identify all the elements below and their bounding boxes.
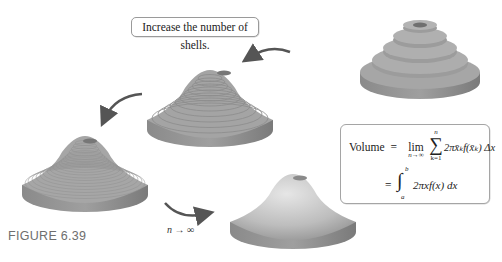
integral-lower: a bbox=[401, 193, 405, 201]
formula-volume-label: Volume bbox=[349, 141, 385, 153]
smooth-solid bbox=[230, 174, 356, 249]
sum-lower: k=1 bbox=[427, 154, 445, 162]
few-shells-solid bbox=[360, 20, 480, 99]
formula-equals: = bbox=[390, 141, 397, 153]
arrow-middle-to-left-icon bbox=[105, 94, 142, 118]
more-shells-solid bbox=[147, 70, 273, 147]
sigma-icon: ∑ bbox=[427, 136, 445, 154]
integral-upper: b bbox=[405, 165, 409, 173]
formula-integrand: 2πxf(x) dx bbox=[413, 179, 457, 191]
lim-subscript: n→∞ bbox=[406, 151, 426, 159]
callout-increase-shells: Increase the number of shells. bbox=[131, 17, 259, 37]
arrow-left-to-smooth-icon bbox=[165, 203, 205, 216]
limit-label: n → ∞ bbox=[167, 224, 194, 235]
figure-caption: FIGURE 6.39 bbox=[8, 229, 86, 243]
integral-icon: ∫ bbox=[397, 169, 402, 192]
formula-equals-2: = bbox=[385, 179, 392, 191]
formula-summand: 2πx̄ₖf(x̄ₖ) Δx bbox=[444, 141, 495, 153]
volume-formula-box: Volume = lim n→∞ n ∑ k=1 2πx̄ₖf(x̄ₖ) Δx … bbox=[340, 124, 490, 204]
many-shells-solid bbox=[22, 136, 148, 212]
formula-lhs: Volume = bbox=[349, 141, 400, 153]
formula-sum: n ∑ k=1 bbox=[427, 128, 445, 162]
formula-limit: lim n→∞ bbox=[406, 141, 426, 159]
arrow-right-to-middle-icon bbox=[250, 49, 290, 57]
